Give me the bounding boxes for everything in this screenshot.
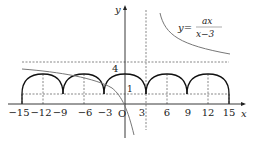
svg-text:−9: −9: [53, 107, 68, 118]
diagram: −15 −12 −9 −6 −3 3 6 9 12 15 O x y 4 1 y…: [0, 0, 256, 141]
origin-label: O: [118, 108, 126, 119]
svg-text:15: 15: [223, 107, 236, 118]
svg-text:y=: y=: [177, 22, 192, 33]
svg-text:12: 12: [202, 107, 215, 118]
y-arrow-icon: [123, 5, 127, 10]
svg-text:−15: −15: [8, 107, 29, 118]
x-arrow-icon: [241, 102, 246, 106]
y-axis-label: y: [114, 4, 121, 15]
svg-text:6: 6: [164, 107, 170, 118]
y-tick-4: 4: [112, 63, 118, 74]
y-tick-1: 1: [127, 84, 133, 94]
curve-label: y= ax x−3: [177, 16, 222, 39]
semicircle-arcs: [22, 74, 229, 104]
svg-text:x−3: x−3: [196, 29, 215, 39]
svg-text:−3: −3: [98, 107, 113, 118]
x-axis-label: x: [241, 108, 247, 119]
svg-text:ax: ax: [202, 16, 212, 26]
svg-text:3: 3: [139, 107, 145, 118]
svg-text:9: 9: [185, 107, 191, 118]
coordinate-plot: −15 −12 −9 −6 −3 3 6 9 12 15 O x y 4 1 y…: [0, 0, 256, 141]
svg-text:−6: −6: [78, 107, 93, 118]
svg-text:−12: −12: [30, 107, 51, 118]
